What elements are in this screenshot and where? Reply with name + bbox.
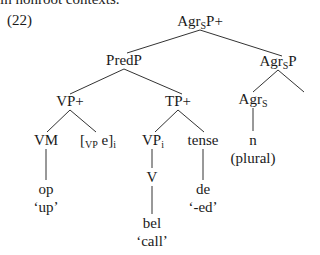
node-base: Agr bbox=[239, 91, 262, 107]
node-vp-trace: [VP e]i bbox=[80, 132, 116, 153]
node-vp-plus: VP+ bbox=[56, 93, 84, 110]
node-plural: (plural) bbox=[231, 150, 276, 167]
node-base: Agr bbox=[259, 53, 282, 69]
node-subscript: S bbox=[262, 98, 268, 109]
node-agrs: AgrS bbox=[239, 91, 268, 112]
node-tense: tense bbox=[188, 132, 219, 149]
trace-index: i bbox=[113, 139, 116, 150]
trace-empty: e] bbox=[98, 132, 113, 148]
node-base: VP bbox=[142, 132, 161, 148]
node-tail: P bbox=[288, 53, 296, 69]
node-agrsp: AgrSP bbox=[259, 53, 296, 74]
gloss-up: ‘up’ bbox=[34, 199, 59, 216]
node-vm: VM bbox=[34, 132, 58, 149]
node-tp-plus: TP+ bbox=[165, 93, 191, 110]
node-tail: P+ bbox=[206, 13, 223, 29]
node-vp-i: VPi bbox=[142, 132, 164, 153]
trace-subscript: VP bbox=[85, 139, 98, 150]
gloss-ed: ‘-ed’ bbox=[188, 199, 217, 216]
leaf-de: de bbox=[196, 181, 210, 198]
node-base: Agr bbox=[177, 13, 200, 29]
node-index: i bbox=[161, 139, 164, 150]
node-v: V bbox=[147, 169, 158, 186]
node-predp: PredP bbox=[106, 52, 142, 69]
node-agrsp-plus: AgrSP+ bbox=[177, 13, 223, 34]
node-n: n bbox=[249, 132, 257, 149]
leaf-bel: bel bbox=[143, 215, 161, 232]
leaf-op: op bbox=[39, 181, 54, 198]
gloss-call: ‘call’ bbox=[136, 233, 168, 250]
